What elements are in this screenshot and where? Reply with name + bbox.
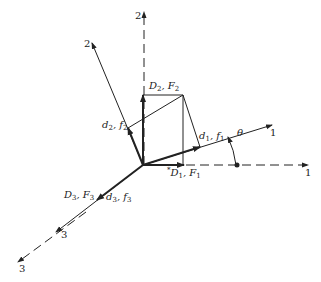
vector-d1f1 <box>143 147 200 165</box>
local-axis-3-label: 3 <box>61 230 67 240</box>
arc-center-dot <box>235 163 240 168</box>
label-D3F3: D3, F3 <box>64 190 94 202</box>
global-axis-2-label: 2 <box>135 11 141 21</box>
label-d1f1: d1, f1 <box>199 131 224 143</box>
vector-d2f2 <box>128 128 143 165</box>
local-axis-1-label: 1 <box>270 128 276 138</box>
global-axis-3 <box>18 212 86 262</box>
construction-line <box>128 95 183 128</box>
construction-line <box>183 95 200 147</box>
label-d3f3: d3, f3 <box>106 192 131 204</box>
label-D1F1: *D1, F1 <box>167 167 201 180</box>
label-d2f2: d2, f2 <box>102 120 127 132</box>
local-axis-2-label: 2 <box>84 39 90 49</box>
global-axis-1-label: 1 <box>305 168 311 178</box>
theta-label: θ <box>237 128 243 138</box>
theta-arc <box>228 137 236 165</box>
label-D2F2: D2, F2 <box>149 81 179 93</box>
global-axis-3-label: 3 <box>19 264 25 274</box>
axis-rotation-diagram <box>0 0 321 282</box>
